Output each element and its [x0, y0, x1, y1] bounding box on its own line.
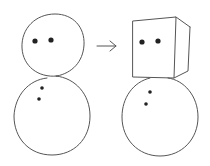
cube-front-face	[133, 17, 176, 78]
button-upper	[148, 90, 152, 94]
eye-left	[139, 39, 144, 44]
button-lower	[37, 97, 41, 101]
round-head	[22, 14, 84, 76]
cube-head	[133, 17, 190, 78]
cube-top-face	[176, 17, 190, 27]
snowman-round-head	[14, 14, 90, 155]
arrow-right-icon	[97, 41, 116, 51]
round-body	[14, 76, 90, 155]
snowman-cube-head	[122, 17, 198, 156]
eye-left	[32, 38, 37, 43]
cube-side-face	[174, 27, 190, 78]
snowman-transformation-illustration	[0, 0, 210, 166]
button-lower	[144, 102, 148, 106]
round-body	[122, 78, 198, 156]
button-upper	[40, 86, 44, 90]
eye-right	[48, 37, 53, 42]
eye-right	[155, 38, 160, 43]
